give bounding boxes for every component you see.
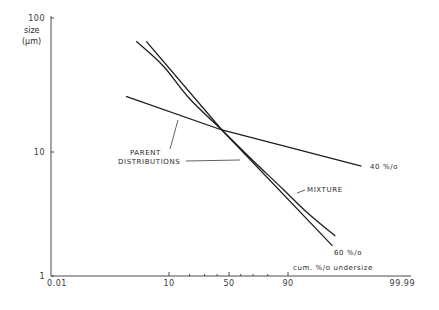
leader-mixture: [297, 190, 305, 193]
series-line-mixture: [136, 41, 335, 236]
y-tick-label-100: 100: [28, 14, 45, 23]
series-line-60-o: [146, 41, 332, 246]
x-tick-label-0.01: 0.01: [47, 279, 67, 288]
leader-parent-60: [186, 160, 240, 161]
y-tick-label-1: 1: [39, 272, 45, 281]
series-lines: [126, 41, 361, 246]
x-tick-label-99.99: 99.99: [390, 279, 415, 288]
annotation-distributions: DISTRIBUTIONS: [118, 158, 180, 166]
x-tick-label-50: 50: [223, 279, 234, 288]
leader-parent-40: [170, 120, 178, 149]
x-tick-label-10: 10: [163, 279, 174, 288]
annotation-mixture: MIXTURE: [307, 186, 343, 194]
y-axis-label-size: size: [24, 26, 40, 35]
y-axis-label-unit: (µm): [22, 37, 41, 46]
x-axis-label: cum. %/o undersize: [293, 264, 373, 272]
chart: 110100 0.0110509099.99 size (µm) cum. %/…: [0, 0, 439, 310]
x-ticks: 0.0110509099.99: [47, 272, 415, 288]
x-tick-label-90: 90: [282, 279, 293, 288]
series-line-40-o: [126, 96, 361, 166]
y-tick-label-10: 10: [34, 148, 45, 157]
annotation-parent: PARENT: [130, 149, 161, 157]
series-label-60: 60 %/o: [334, 249, 362, 257]
y-ticks: 110100: [28, 14, 54, 281]
axes: [51, 16, 411, 276]
series-label-40: 40 %/o: [370, 163, 398, 171]
